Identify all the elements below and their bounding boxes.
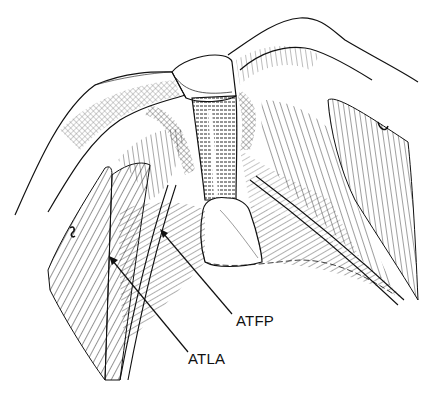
urethra [192,96,237,200]
label-atla: ATLA [188,351,225,366]
clipped-caption-area [0,404,441,415]
label-atfp: ATFP [236,313,274,328]
right-ramus-shading [236,46,320,85]
paraurethral-shading-right [238,90,256,150]
left-muscle-sheet [48,167,112,380]
pubic-symphysis [172,55,236,102]
